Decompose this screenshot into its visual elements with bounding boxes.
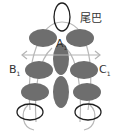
label-c1: C1 — [99, 64, 111, 77]
segment-left-mid — [25, 61, 53, 79]
tail-outline — [54, 3, 70, 31]
label-a-sub: 1 — [64, 44, 68, 51]
segment-left-low — [21, 83, 49, 101]
segment-right-mid — [70, 61, 98, 79]
label-b1: B1 — [9, 64, 20, 77]
segment-right-top — [66, 29, 94, 47]
label-b-letter: B — [9, 63, 17, 76]
segment-center-lower — [53, 76, 69, 108]
label-c-letter: C — [99, 63, 107, 76]
segment-left-top — [29, 29, 57, 47]
label-c-sub: 1 — [107, 70, 111, 77]
label-b-sub: 1 — [17, 70, 21, 77]
label-tail: 尾巴 — [80, 13, 102, 24]
label-a1: A1 — [56, 38, 67, 51]
label-a-letter: A — [56, 37, 64, 50]
segment-right-low — [73, 83, 101, 101]
